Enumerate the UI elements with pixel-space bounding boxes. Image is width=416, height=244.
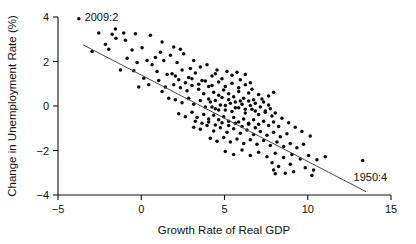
data-point [192,125,196,129]
data-point [149,34,153,38]
data-point [209,137,213,141]
data-point [204,79,208,83]
data-point [294,125,298,129]
data-point [202,92,206,96]
data-point [145,59,149,63]
data-point [227,124,231,128]
data-point [239,99,243,103]
data-point [247,122,251,126]
data-point [147,83,151,87]
data-point [184,81,188,85]
data-point [167,96,171,100]
data-point [250,108,254,112]
data-point [275,140,279,144]
data-point [219,103,223,107]
data-point [235,70,239,74]
data-point [165,73,169,77]
data-point [220,96,224,100]
data-point [135,61,139,65]
data-point [285,132,289,136]
data-point [279,135,283,139]
data-point [97,31,101,35]
data-point [192,59,196,63]
data-point [207,97,211,101]
data-point [114,36,118,40]
data-point [202,113,206,117]
data-point [210,105,214,109]
data-point [232,95,236,99]
data-point [270,114,274,118]
data-point [194,71,198,75]
okun-law-scatter-chart: −5051015 420−2−4 2009:21950:4 Growth Rat… [0,0,416,244]
data-point [190,77,194,81]
data-point [200,122,204,126]
data-point [274,172,278,176]
data-point [169,54,173,58]
data-point [315,158,319,162]
data-point [289,142,293,146]
data-point [199,99,203,103]
data-point [257,93,261,97]
data-point [170,72,174,76]
data-point [277,125,281,129]
data-point [232,127,236,131]
data-point [190,84,194,88]
data-point [232,153,236,157]
data-point [159,50,163,54]
x-tick-label: 15 [385,203,397,215]
data-point [194,119,198,123]
data-point [254,126,257,130]
data-point [174,98,178,102]
data-point [205,63,209,67]
data-point [282,156,286,160]
data-point [172,83,176,87]
data-point [262,100,266,104]
data-point [119,68,123,72]
data-point [155,70,159,74]
data-point [215,68,219,72]
chart-canvas: −5051015 420−2−4 2009:21950:4 Growth Rat… [0,0,416,244]
data-point [274,111,278,115]
data-point [234,100,238,104]
data-point [237,120,241,124]
data-point [157,79,161,83]
data-point [134,32,138,36]
y-tick-label: −2 [36,145,49,157]
data-point [242,142,246,146]
data-point [244,73,248,77]
data-point [175,61,179,65]
data-point [257,122,261,126]
data-point [77,17,81,21]
data-point [185,89,189,93]
data-point [207,85,211,89]
data-point [199,65,203,69]
data-point [254,102,257,106]
data-point [187,76,191,80]
data-point [250,88,254,92]
data-point [295,146,299,150]
x-tick-label: −5 [52,203,65,215]
data-point [269,107,273,111]
data-point [262,119,266,123]
data-point [312,168,316,172]
data-point [217,94,221,98]
data-point [229,140,233,144]
data-point [177,78,181,82]
data-point [212,129,216,133]
data-point [257,113,261,117]
data-point [309,134,313,138]
x-tick-label: 10 [302,203,314,215]
data-point [179,86,183,90]
annotation-label: 2009:2 [85,11,119,23]
y-axis-title: Change in Unemployment Rate (%) [6,15,18,197]
data-point [302,143,306,147]
data-point [274,151,278,155]
data-point [239,131,243,135]
data-point [197,88,201,92]
data-point [237,90,241,94]
data-point [230,74,234,78]
data-point [104,42,108,46]
data-point [267,94,271,98]
data-point [220,121,224,125]
data-point [234,106,238,110]
